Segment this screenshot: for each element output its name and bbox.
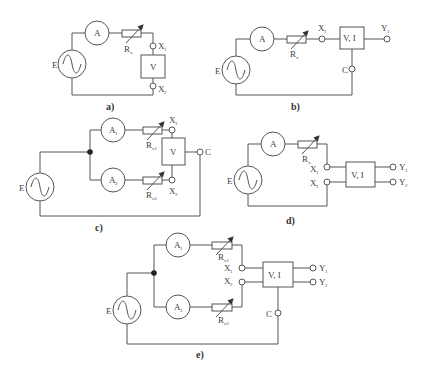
variable-resistor-icon [287,31,308,49]
svg-text:1: 1 [324,29,327,34]
panel-d: E A R x X 1 X 2 V, I Y 1 Y 2 d) [227,132,408,227]
variable-resistor-2-icon [143,172,164,190]
terminal-x2 [239,279,245,285]
svg-text:E: E [106,306,112,316]
circuit-figure: E A R x X 1 V X 2 a) E [0,0,421,376]
ac-source-icon [222,56,250,84]
ac-source-icon [234,166,262,194]
svg-text:A: A [94,28,101,38]
ammeter-2-icon: A 2 [166,295,190,319]
svg-text:2: 2 [230,282,233,287]
terminal-x1 [319,36,325,42]
svg-text:A: A [259,34,266,44]
svg-text:C: C [342,65,348,75]
svg-text:1: 1 [405,168,408,173]
terminal-y1 [310,265,316,271]
terminal-x1 [169,127,175,133]
caption-b: b) [291,101,300,113]
terminal-y2 [310,279,316,285]
svg-text:V: V [150,62,157,72]
svg-text:1: 1 [230,269,233,274]
svg-text:x1: x1 [152,146,158,151]
ac-source-icon [26,173,54,201]
svg-text:x2: x2 [152,196,158,201]
ammeter-icon: A [250,27,274,51]
variable-resistor-1-icon [143,122,164,140]
svg-text:2: 2 [405,183,408,188]
junction-dot [87,149,93,155]
terminal-x2 [150,83,156,89]
svg-text:A: A [270,139,277,149]
svg-text:C: C [266,309,272,319]
svg-text:1: 1 [164,47,167,52]
panel-c: E A 1 A 2 R x1 R x2 X 1 X 2 V C [19,115,211,234]
svg-text:E: E [215,66,221,76]
panel-b: E A R x X 1 V, I Y 1 C b) [215,23,390,113]
caption-c: c) [95,222,103,234]
terminal-c [275,310,281,316]
terminal-c [349,66,355,72]
svg-text:1: 1 [175,121,178,126]
svg-text:x2: x2 [224,321,230,326]
caption-d: d) [286,215,295,227]
ammeter-1-icon: A 1 [166,233,190,257]
svg-text:2: 2 [175,192,178,197]
source-label: E [52,60,58,70]
terminal-x2 [169,177,175,183]
junction-dot [151,270,157,276]
terminal-x1 [324,164,330,170]
svg-text:1: 1 [387,29,390,34]
svg-text:1: 1 [325,269,328,274]
terminal-c [197,149,203,155]
svg-text:x: x [130,50,133,55]
svg-text:E: E [19,183,25,193]
svg-text:E: E [227,176,233,186]
ammeter-2-icon: A 2 [101,168,125,192]
svg-text:V, I: V, I [343,33,356,43]
terminal-x2 [324,179,330,185]
ammeter-icon: A [261,132,285,156]
terminal-y1 [390,164,396,170]
variable-resistor-icon [298,136,319,154]
panel-a: E A R x X 1 V X 2 a) [52,21,167,113]
variable-resistor-icon [122,25,143,43]
panel-e: E A 1 A 2 R x1 R x2 X 1 X 2 V, I Y [106,233,328,361]
svg-text:2: 2 [316,184,319,189]
terminal-x1 [239,265,245,271]
svg-text:V, I: V, I [268,270,281,280]
terminal-x1 [150,43,156,49]
svg-text:V: V [170,147,177,157]
svg-text:C: C [205,147,211,157]
terminal-y2 [390,179,396,185]
caption-a: a) [106,101,114,113]
ac-source-icon [58,50,86,78]
ammeter-icon: A [85,21,109,45]
svg-text:2: 2 [325,283,328,288]
ac-source-icon [113,296,141,324]
ammeter-1-icon: A 1 [101,118,125,142]
svg-text:1: 1 [316,170,319,175]
svg-text:V, I: V, I [351,170,364,180]
svg-text:2: 2 [164,90,167,95]
svg-text:x: x [296,55,299,60]
caption-e: e) [196,349,204,361]
terminal-y1 [384,36,390,42]
